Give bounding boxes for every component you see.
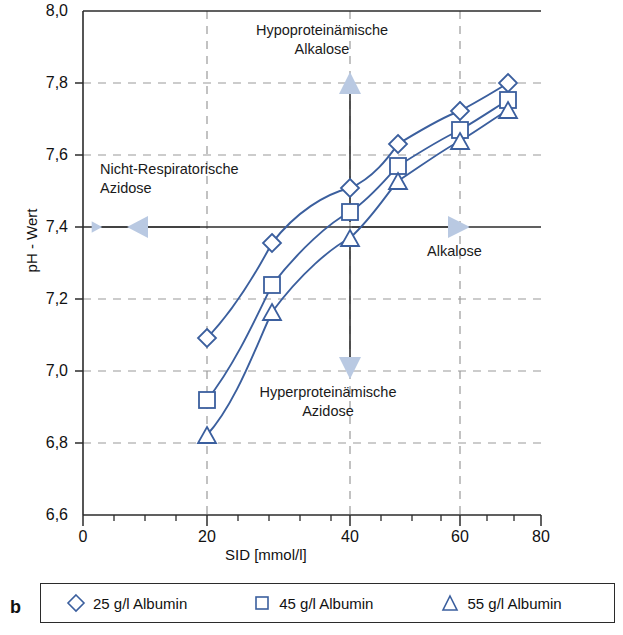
annotation-alkalosis: Alkalose: [427, 242, 547, 261]
y-axis-ticks: [75, 83, 83, 443]
annotation-line: Nicht-Respiratorische: [100, 160, 330, 179]
y-axis-label: pH - Wert: [23, 186, 40, 296]
grid-lines: [83, 11, 541, 515]
y-tick-label: 7,6: [22, 146, 68, 164]
chart-figure: 8,0 7,8 7,6 7,4 7,2 7,0 6,8 6,6 0 20 40 …: [0, 0, 623, 635]
y-tick-label: 6,8: [22, 434, 68, 452]
triangle-marker-icon: [433, 593, 467, 613]
y-tick-label: 6,6: [22, 506, 68, 524]
legend-item-55: 55 g/l Albumin: [433, 593, 561, 613]
diamond-marker-icon: [59, 593, 93, 613]
figure-panel: 8,0 7,8 7,6 7,4 7,2 7,0 6,8 6,6 0 20 40 …: [0, 0, 623, 635]
annotation-line: Hypoproteinämische: [232, 21, 412, 40]
annotation-line: Alkalose: [232, 40, 412, 59]
annotation-hyperproteinemic-acidosis: Hyperproteinämische Azidose: [238, 383, 418, 421]
annotation-line: Azidose: [238, 402, 418, 421]
chart-legend: 25 g/l Albumin 45 g/l Albumin 55 g/l Alb…: [40, 583, 615, 623]
annotation-line: Hyperproteinämische: [238, 383, 418, 402]
x-axis-ticks: [83, 515, 541, 526]
direction-arrows: [92, 72, 470, 379]
panel-label: b: [10, 597, 21, 618]
legend-label: 45 g/l Albumin: [279, 595, 373, 612]
annotation-hypoproteinemic-alkalosis: Hypoproteinämische Alkalose: [232, 21, 412, 59]
legend-label: 55 g/l Albumin: [467, 595, 561, 612]
legend-label: 25 g/l Albumin: [93, 595, 187, 612]
plot-frame: [83, 11, 541, 515]
x-tick-label: 80: [521, 528, 561, 546]
y-tick-label: 8,0: [22, 2, 68, 20]
y-tick-label: 7,0: [22, 362, 68, 380]
legend-item-45: 45 g/l Albumin: [245, 593, 373, 613]
x-axis-label: SID [mmol/l]: [225, 546, 307, 563]
annotation-line: Azidose: [100, 179, 330, 198]
x-tick-label: 20: [187, 528, 227, 546]
legend-item-25: 25 g/l Albumin: [59, 593, 187, 613]
square-marker-icon: [245, 593, 279, 613]
annotation-non-respiratory-acidosis: Nicht-Respiratorische Azidose: [100, 160, 330, 198]
x-tick-label: 40: [330, 528, 370, 546]
x-tick-label: 0: [63, 528, 103, 546]
y-tick-label: 7,8: [22, 74, 68, 92]
x-tick-label: 60: [440, 528, 480, 546]
